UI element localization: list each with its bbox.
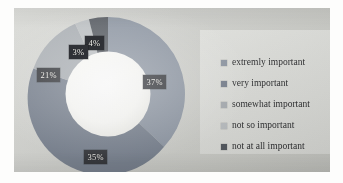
doughnut-hole — [66, 52, 151, 137]
legend-swatch-icon — [221, 144, 227, 150]
legend-item-label: extremly important — [232, 58, 305, 68]
chart-panel: 37% 35% 21% 3% 4% extremly important ver… — [14, 8, 330, 172]
data-label-not-at-all-important: 4% — [85, 36, 104, 50]
data-label-somewhat-important: 21% — [37, 68, 60, 82]
data-label-extremly-important: 37% — [143, 75, 166, 89]
legend-swatch-icon — [221, 102, 227, 108]
legend-swatch-icon — [221, 60, 227, 66]
legend-item-not-at-all-important: not at all important — [221, 136, 330, 157]
doughnut-slices — [28, 17, 185, 172]
legend-item-label: not so important — [232, 121, 294, 131]
legend-item-label: somewhat important — [232, 100, 310, 110]
legend-item-not-so-important: not so important — [221, 115, 330, 136]
legend-item-somewhat-important: somewhat important — [221, 94, 330, 115]
legend-item-label: very important — [232, 79, 288, 89]
chart-legend: extremly important very important somewh… — [221, 52, 330, 157]
doughnut-svg — [22, 16, 190, 172]
data-label-not-so-important: 3% — [69, 45, 88, 59]
doughnut-chart: 37% 35% 21% 3% 4% — [22, 16, 190, 172]
legend-item-very-important: very important — [221, 73, 330, 94]
legend-swatch-icon — [221, 81, 227, 87]
legend-swatch-icon — [221, 123, 227, 129]
legend-item-label: not at all important — [232, 142, 305, 152]
data-label-very-important: 35% — [84, 150, 107, 164]
legend-item-extremly-important: extremly important — [221, 52, 330, 73]
scanned-chart-page: 37% 35% 21% 3% 4% extremly important ver… — [0, 0, 343, 183]
